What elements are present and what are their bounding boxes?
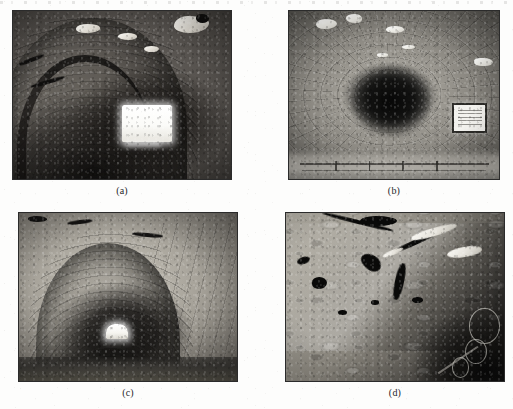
photo-d-damaged-lining-closeup — [286, 213, 504, 381]
figure-container: (a) (b) — [0, 0, 513, 409]
photo-c-rough-tunnel-arch — [19, 213, 237, 381]
photo-b-tunnel-bore — [289, 11, 499, 179]
figure-panel-d — [285, 212, 505, 382]
photo-a-vignette — [13, 11, 231, 179]
caption-panel-d: (d) — [285, 387, 505, 399]
photo-a-tunnel-arch-interior — [13, 11, 231, 179]
caption-panel-b: (b) — [288, 185, 500, 197]
photo-d-vignette — [286, 213, 504, 381]
photo-c-vignette — [19, 213, 237, 381]
figure-panel-a — [12, 10, 232, 180]
figure-panel-c — [18, 212, 238, 382]
figure-panel-b — [288, 10, 500, 180]
scan-artifact-line — [0, 1, 513, 4]
caption-panel-c: (c) — [18, 387, 238, 399]
photo-b-vignette — [289, 11, 499, 179]
caption-panel-a: (a) — [12, 185, 232, 197]
